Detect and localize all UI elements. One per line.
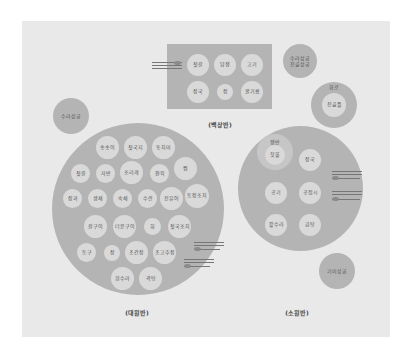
dish: 찜 bbox=[174, 157, 197, 180]
dish: 흰수라 bbox=[111, 267, 134, 290]
dish: 초고추장 bbox=[153, 241, 176, 264]
dish: 토구 bbox=[77, 243, 96, 262]
chopsticks-icon bbox=[332, 194, 362, 195]
chopsticks-icon bbox=[194, 245, 224, 246]
chopsticks-icon bbox=[332, 191, 362, 192]
diagram-canvas: 젓갈 담쟁 고기 장국 장 꿀기름 (백상반) 수라상궁 전골상궁 화로 전골틀… bbox=[22, 21, 390, 337]
chopsticks-icon bbox=[332, 174, 362, 175]
dish: 전유어 bbox=[160, 187, 183, 210]
dish: 장과 bbox=[63, 189, 82, 208]
dish: 초간장 bbox=[125, 241, 148, 264]
dish: 장국 bbox=[187, 81, 209, 103]
chopsticks-icon bbox=[184, 262, 214, 263]
dish: 젓갈 bbox=[71, 164, 90, 183]
chopsticks-icon bbox=[184, 259, 214, 260]
surasanggung-left: 수라상궁 bbox=[53, 98, 89, 134]
gimisanggung: 기미상궁 bbox=[319, 253, 355, 289]
dish: 공접시 bbox=[299, 182, 321, 204]
dish: 찻물 bbox=[265, 145, 285, 165]
chopsticks-icon bbox=[152, 65, 182, 66]
spoon-icon bbox=[332, 197, 339, 201]
dish: 토장조치 bbox=[185, 184, 209, 208]
spoon-icon bbox=[332, 176, 339, 180]
dish: 팥수라 bbox=[265, 214, 287, 236]
dish: 꿀기름 bbox=[241, 81, 263, 103]
dish: 곽탕 bbox=[139, 267, 162, 290]
dish: 조리개 bbox=[120, 161, 143, 184]
dish: 편육 bbox=[150, 164, 169, 183]
sowonban-label: (소원반) bbox=[285, 308, 308, 317]
dish: 송송이 bbox=[96, 136, 119, 159]
dish: 젓국조치 bbox=[168, 215, 191, 238]
daewonban-label: (대원반) bbox=[125, 308, 148, 317]
dish: 장 bbox=[217, 84, 233, 100]
dish: 수란 bbox=[138, 189, 157, 208]
spoon-icon bbox=[174, 61, 181, 65]
dish: 젓국지 bbox=[124, 136, 147, 159]
surasanggung-jeongolsanggung: 수라상궁 전골상궁 bbox=[283, 44, 317, 78]
dish: 담쟁 bbox=[214, 54, 236, 76]
dish: 갈구이 bbox=[84, 215, 107, 238]
brazier-inner: 전골틀 bbox=[322, 93, 346, 117]
spoon-handle bbox=[152, 68, 182, 69]
dish: 장 bbox=[104, 245, 120, 261]
dish: 젓갈 bbox=[187, 54, 209, 76]
dish: 동치미 bbox=[152, 136, 175, 159]
dish: 공기 bbox=[265, 182, 287, 204]
brazier-label: 화로 bbox=[329, 83, 339, 90]
jaengban-label: 쟁반 bbox=[270, 138, 280, 145]
spoon-icon bbox=[194, 247, 201, 251]
dish: 더운구이 bbox=[113, 215, 136, 238]
dish: 생채 bbox=[88, 189, 107, 208]
dish: 회 bbox=[144, 218, 161, 235]
dish: 고기 bbox=[241, 54, 263, 76]
dish: 곰탕 bbox=[299, 214, 321, 236]
dish: 장국 bbox=[299, 149, 321, 171]
chopsticks-icon bbox=[194, 242, 224, 243]
chopsticks-icon bbox=[332, 171, 362, 172]
dish: 자반 bbox=[96, 164, 115, 183]
dish: 숙채 bbox=[113, 189, 132, 208]
spoon-icon bbox=[184, 264, 191, 268]
baeksang-label: (백상반) bbox=[208, 120, 231, 129]
